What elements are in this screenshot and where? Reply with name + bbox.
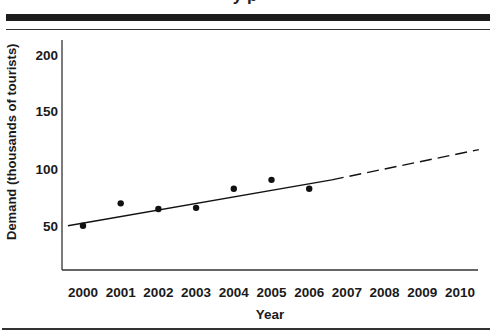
plot-area xyxy=(0,0,490,334)
x-tick-2002: 2002 xyxy=(138,285,178,300)
x-tick-2003: 2003 xyxy=(176,285,216,300)
data-point-2005 xyxy=(268,177,274,183)
axes xyxy=(62,40,478,270)
x-tick-2000: 2000 xyxy=(63,285,103,300)
x-tick-2007: 2007 xyxy=(327,285,367,300)
fitted-line xyxy=(68,180,332,226)
data-point-2004 xyxy=(231,186,237,192)
data-point-2003 xyxy=(193,205,199,211)
x-tick-2010: 2010 xyxy=(440,285,480,300)
x-tick-2001: 2001 xyxy=(101,285,141,300)
footer-rule xyxy=(2,328,490,330)
x-tick-2009: 2009 xyxy=(402,285,442,300)
x-tick-2006: 2006 xyxy=(289,285,329,300)
data-point-2000 xyxy=(80,223,86,229)
data-point-2001 xyxy=(118,200,124,206)
x-tick-2005: 2005 xyxy=(252,285,292,300)
data-point-2002 xyxy=(155,206,161,212)
x-tick-2004: 2004 xyxy=(214,285,254,300)
forecast-line xyxy=(332,150,479,180)
data-point-2006 xyxy=(306,186,312,192)
trend-line xyxy=(68,150,479,226)
x-axis-label: Year xyxy=(240,307,300,322)
x-tick-2008: 2008 xyxy=(365,285,405,300)
